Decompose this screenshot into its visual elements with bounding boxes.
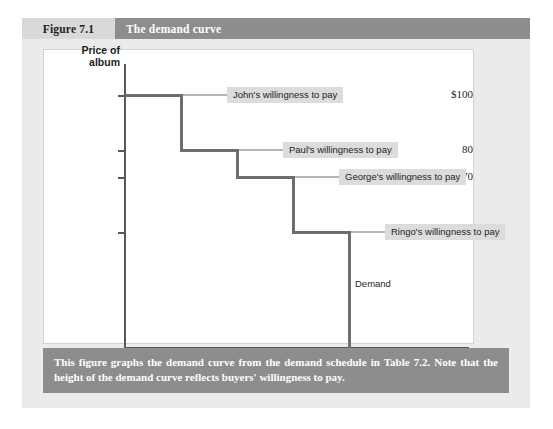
demand-step-john-horizontal bbox=[125, 94, 183, 97]
y-tick-100 bbox=[118, 95, 125, 97]
leader-line-john bbox=[183, 95, 227, 96]
figure-header: Figure 7.1 The demand curve bbox=[22, 18, 530, 39]
y-tick-80 bbox=[118, 150, 125, 152]
figure-title-banner: The demand curve bbox=[115, 18, 530, 39]
chart-panel: Price ofalbum Quantity ofalbums $100 80 … bbox=[43, 49, 474, 344]
callout-ringo: Ringo's willingness to pay bbox=[385, 224, 505, 240]
y-axis-line bbox=[124, 64, 126, 349]
figure-container: Figure 7.1 The demand curve Price ofalbu… bbox=[22, 18, 530, 408]
y-tick-50 bbox=[118, 232, 125, 234]
figure-title-label: The demand curve bbox=[126, 23, 221, 35]
figure-caption-text: This figure graphs the demand curve from… bbox=[54, 355, 498, 385]
demand-drop-80-to-70 bbox=[236, 149, 239, 178]
demand-step-george-horizontal bbox=[236, 176, 295, 179]
leader-line-ringo bbox=[351, 232, 385, 233]
demand-step-ringo-horizontal bbox=[292, 231, 351, 234]
callout-george: George's willingness to pay bbox=[339, 169, 466, 185]
y-axis-title: Price ofalbum bbox=[44, 44, 120, 68]
callout-paul: Paul's willingness to pay bbox=[283, 142, 398, 158]
leader-line-paul bbox=[239, 150, 283, 151]
y-tick-70 bbox=[118, 177, 125, 179]
figure-number-chip: Figure 7.1 bbox=[22, 18, 115, 39]
y-tick-label-80: 80 bbox=[411, 143, 473, 155]
demand-curve-label: Demand bbox=[355, 278, 391, 289]
demand-step-paul-horizontal bbox=[180, 149, 239, 152]
callout-john: John's willingness to pay bbox=[227, 87, 343, 103]
demand-drop-100-to-80 bbox=[180, 94, 183, 151]
leader-line-george bbox=[295, 177, 339, 178]
figure-caption: This figure graphs the demand curve from… bbox=[43, 348, 509, 393]
demand-drop-to-axis bbox=[348, 231, 351, 349]
demand-drop-70-to-50 bbox=[292, 176, 295, 233]
y-tick-label-100: $100 bbox=[411, 88, 473, 100]
figure-number-label: Figure 7.1 bbox=[43, 23, 95, 35]
